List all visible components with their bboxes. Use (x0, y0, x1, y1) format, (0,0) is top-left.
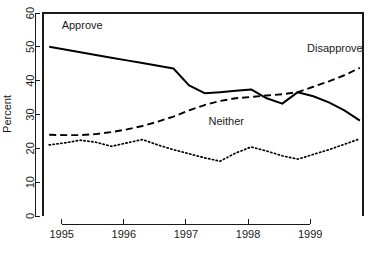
line-chart: 0102030405060 19951996199719981999 Appro… (0, 0, 378, 254)
chart-container: 0102030405060 19951996199719981999 Appro… (0, 0, 378, 254)
series-label-disapprove: Disapprove (307, 42, 363, 54)
y-axis: 0102030405060 (24, 7, 40, 219)
y-tick-label: 60 (24, 7, 36, 19)
series-label-neither: Neither (209, 115, 245, 127)
series-label-approve: Approve (62, 19, 103, 31)
x-tick-label: 1998 (236, 228, 260, 240)
y-tick-label: 30 (24, 108, 36, 120)
y-axis-title: Percent (1, 95, 13, 133)
x-tick-label: 1995 (49, 228, 73, 240)
y-tick-label: 50 (24, 41, 36, 53)
x-axis: 19951996199719981999 (49, 219, 322, 240)
y-tick-label: 20 (24, 142, 36, 154)
y-tick-label: 10 (24, 176, 36, 188)
x-tick-label: 1996 (112, 228, 136, 240)
y-tick-label: 0 (24, 213, 36, 219)
y-tick-label: 40 (24, 75, 36, 87)
x-tick-label: 1997 (174, 228, 198, 240)
x-tick-label: 1999 (298, 228, 322, 240)
